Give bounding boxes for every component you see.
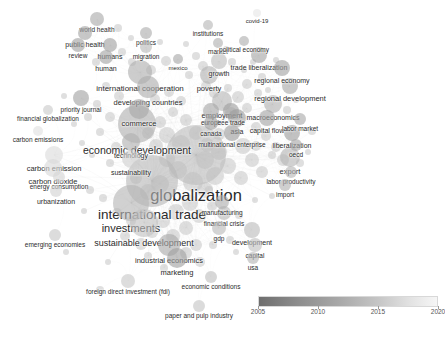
network-node[interactable] [50,185,62,197]
network-node[interactable] [204,116,218,130]
node-label: gdp [214,236,225,243]
network-node[interactable] [245,153,259,167]
network-map-canvas[interactable]: globalizationinternational tradeeconomic… [0,0,445,337]
node-label: poverty [197,85,222,93]
network-node[interactable] [157,39,163,45]
network-node[interactable] [285,166,297,178]
network-node[interactable] [179,221,193,235]
network-node[interactable] [99,50,113,64]
network-node[interactable] [121,274,135,288]
network-node[interactable] [183,41,189,47]
network-node[interactable] [167,248,187,268]
node-label: marketing [161,269,194,277]
node-label: urbanization [37,198,75,205]
node-label: labor productivity [266,179,315,186]
network-node[interactable] [252,197,258,203]
node-label: review [69,53,88,60]
network-node[interactable] [96,128,104,136]
network-node[interactable] [185,71,193,79]
network-node[interactable] [61,93,67,99]
network-node[interactable] [53,171,65,183]
network-node[interactable] [224,125,240,141]
network-node[interactable] [105,112,115,122]
node-label: usa [248,265,258,272]
network-node[interactable] [269,193,275,199]
node-label: political economy [219,47,269,54]
network-node[interactable] [259,110,275,126]
network-node[interactable] [212,221,226,235]
network-node[interactable] [49,229,61,241]
node-layer[interactable]: globalizationinternational tradeeconomic… [0,0,445,337]
node-label: foreign direct investment (fdi) [86,289,170,296]
node-label: carbon emissions [13,137,64,144]
network-node[interactable] [223,103,239,119]
network-node[interactable] [128,35,134,41]
network-node[interactable] [215,195,229,209]
network-node[interactable] [168,107,178,117]
network-node[interactable] [33,126,43,136]
node-label: manufacturing [201,210,242,217]
network-node[interactable] [233,249,239,255]
network-node[interactable] [193,300,205,312]
network-node[interactable] [180,114,192,126]
node-label: emerging economies [25,242,85,249]
network-node[interactable] [84,113,92,121]
network-node[interactable] [234,171,248,185]
node-label: paper and pulp industry [165,313,233,320]
network-node[interactable] [232,91,244,103]
node-label: migration [133,54,160,61]
node-label: canada [200,131,221,138]
network-node[interactable] [140,27,152,39]
node-label: labor market [282,126,318,133]
network-node[interactable] [81,208,87,214]
network-node[interactable] [99,194,107,202]
network-node[interactable] [106,159,114,167]
network-node[interactable] [268,151,276,159]
network-node[interactable] [242,79,252,89]
network-node[interactable] [43,105,53,115]
node-label: import [276,192,294,199]
node-label: financial globalization [17,116,79,123]
network-node[interactable] [205,271,217,283]
network-node[interactable] [140,41,152,53]
node-label: economic conditions [182,284,241,291]
network-node[interactable] [248,238,262,252]
network-node[interactable] [283,106,291,114]
node-label: commerce [121,120,156,128]
network-node[interactable] [105,259,111,265]
network-node[interactable] [71,38,85,52]
network-node[interactable] [290,139,302,151]
network-node[interactable] [129,99,149,119]
network-node[interactable] [247,252,259,264]
network-node[interactable] [253,9,261,17]
network-node[interactable] [256,166,268,178]
node-label: capital flow [250,127,285,134]
network-node[interactable] [122,133,140,151]
node-label: oecd [289,152,303,159]
network-node[interactable] [203,20,213,30]
network-node[interactable] [305,149,311,155]
network-node[interactable] [137,76,159,98]
legend-tick-row: 2005201020152020 [258,307,438,319]
network-node[interactable] [90,12,104,26]
network-node[interactable] [279,179,291,191]
network-node[interactable] [274,60,290,76]
network-node[interactable] [294,113,306,125]
network-node[interactable] [73,90,89,106]
network-node[interactable] [244,222,260,238]
network-node[interactable] [211,53,227,69]
network-node[interactable] [122,150,140,168]
year-legend: 2005201020152020 [258,296,438,319]
network-node[interactable] [192,52,200,60]
node-label: regional economy [254,77,309,84]
network-node[interactable] [265,87,271,93]
network-node[interactable] [63,249,69,255]
node-label: multinational enterprise [198,142,265,149]
network-node[interactable] [239,36,249,46]
node-label: regional development [254,95,326,103]
legend-tick-label: 2010 [311,308,325,315]
network-node[interactable] [173,54,183,64]
node-label: sustainability [111,169,151,176]
network-node[interactable] [130,209,158,237]
network-node[interactable] [114,24,122,32]
